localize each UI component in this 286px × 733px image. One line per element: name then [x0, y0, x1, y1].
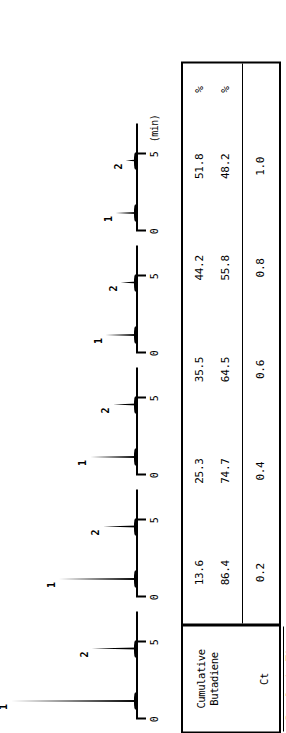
x-axis-tick-label-5: 5: [149, 517, 160, 523]
chromatogram-4: 0512: [0, 239, 160, 361]
table-cell-pyrolysis-time-1: 0.2: [254, 521, 267, 623]
peak-spike: [59, 572, 137, 585]
row-label-cumulative-butadiene: Cumulative Butadiene: [195, 628, 221, 729]
table-cell-pyrolysis-time-4: 0.8: [254, 217, 267, 319]
peak-1: [116, 206, 137, 219]
x-axis-tick-0: [138, 351, 146, 353]
value-cumulative-butadiene: 25.3: [193, 420, 206, 522]
table-cell-butadiene-ct-2: 25.374.7: [193, 420, 232, 522]
units-butadiene: %: [193, 63, 206, 115]
x-axis-tick-label-5: 5: [149, 639, 160, 645]
figure-stage: 051205120512051205(min)12 Cumulative But…: [0, 0, 286, 733]
peak-spike: [11, 694, 137, 707]
peak-label-1: 1: [104, 215, 114, 221]
table-data-columns: 13.686.425.374.735.564.544.255.851.848.2…: [183, 63, 279, 623]
x-axis-tick-label-0: 0: [149, 716, 160, 722]
x-axis-tick-label-0: 0: [149, 228, 160, 234]
chromatogram-5: 05(min)12: [0, 117, 160, 239]
value-cumulative-butadiene: 51.8: [193, 115, 206, 217]
x-axis-tick-5: [138, 396, 146, 398]
chromatogram-3: 0512: [0, 361, 160, 483]
value-ct: 74.7: [219, 420, 232, 522]
table-cell-pyrolysis-time-3: 0.6: [254, 318, 267, 420]
peak-spike: [92, 642, 137, 655]
x-axis-tick-5: [138, 152, 146, 154]
value-cumulative-butadiene: 35.5: [193, 318, 206, 420]
table-row-pyrolysis-time: 0.20.40.60.81.0: [243, 63, 279, 623]
value-ct: 64.5: [219, 318, 232, 420]
peak-label-2: 2: [91, 529, 101, 535]
peak-label-2: 2: [109, 285, 119, 291]
peak-label-1: 1: [78, 459, 88, 465]
results-table: Cumulative Butadiene Ct Pyrolysis Time (…: [181, 61, 281, 733]
peak-label-1: 1: [47, 581, 57, 587]
row-label-ct: Ct: [258, 628, 271, 729]
row-label-pyrolysis-time: Pyrolysis Time (s): [284, 626, 286, 731]
x-axis-tick-5: [138, 518, 146, 520]
peak-1: [11, 694, 137, 707]
table-cell-pyrolysis-time-2: 0.4: [254, 420, 267, 522]
peak-spike: [113, 398, 137, 411]
peak-1: [106, 328, 138, 341]
table-cell-butadiene-ct-5: 51.848.2: [193, 115, 232, 217]
chromatogram-2: 0512: [0, 483, 160, 605]
table-cell-butadiene-ct-4: 44.255.8: [193, 217, 232, 319]
x-axis-tick-label-0: 0: [149, 472, 160, 478]
peak-label-2: 2: [101, 407, 111, 413]
table-cell-pyrolysis-time-5: 1.0: [254, 115, 267, 217]
value-cumulative-butadiene: 13.6: [193, 521, 206, 623]
x-axis-tick-0: [138, 229, 146, 231]
value-cumulative-butadiene: 44.2: [193, 217, 206, 319]
x-axis-tick-label-5: 5: [149, 395, 160, 401]
value-ct: 55.8: [219, 217, 232, 319]
x-axis-tick-5: [138, 274, 146, 276]
peak-label-2: 2: [80, 651, 90, 657]
value-ct: 86.4: [219, 521, 232, 623]
peak-2: [92, 642, 137, 655]
chromatogram-1: 0512: [0, 605, 160, 727]
peak-label-2: 2: [114, 163, 124, 169]
peak-spike: [116, 206, 137, 219]
peak-2: [103, 520, 137, 533]
x-axis-tick-label-0: 0: [149, 594, 160, 600]
peak-spike: [90, 450, 137, 463]
row-label-cumulative-butadiene-ct: Cumulative Butadiene Ct: [183, 626, 284, 731]
x-axis-tick-0: [138, 473, 146, 475]
table-cell-butadiene-ct-3: 35.564.5: [193, 318, 232, 420]
units-ct: %: [219, 63, 232, 115]
x-axis-tick-0: [138, 717, 146, 719]
x-axis-tick-0: [138, 595, 146, 597]
peak-1: [59, 572, 137, 585]
peak-spike: [103, 520, 137, 533]
peak-spike: [126, 154, 137, 167]
peak-spike: [106, 328, 138, 341]
peak-1: [90, 450, 137, 463]
peak-label-1: 1: [0, 703, 9, 709]
table-cell-units-percent: %%: [193, 63, 232, 115]
peak-2: [126, 154, 137, 167]
x-axis-tick-label-5: 5: [149, 151, 160, 157]
peak-spike: [121, 276, 137, 289]
peak-2: [121, 276, 137, 289]
peak-label-1: 1: [94, 337, 104, 343]
x-axis-tick-5: [138, 640, 146, 642]
table-row-butadiene-ct: 13.686.425.374.735.564.544.255.851.848.2…: [183, 63, 243, 623]
chromatogram-panel-group: 051205120512051205(min)12: [0, 0, 160, 733]
x-axis-tick-label-0: 0: [149, 350, 160, 356]
peak-2: [113, 398, 137, 411]
value-ct: 48.2: [219, 115, 232, 217]
x-axis-tick-label-5: 5: [149, 273, 160, 279]
table-cell-butadiene-ct-1: 13.686.4: [193, 521, 232, 623]
table-row-label-column: Cumulative Butadiene Ct Pyrolysis Time (…: [183, 623, 279, 731]
x-axis-unit-label: (min): [149, 114, 160, 142]
